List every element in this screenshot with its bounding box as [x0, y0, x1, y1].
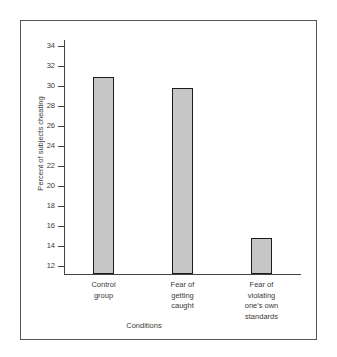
y-tick-label: 34: [33, 42, 55, 50]
y-tick-14: 14: [21, 242, 64, 250]
y-tick-label: 12: [33, 262, 55, 270]
figure-frame: 343230282624222018161412 Control groupFe…: [20, 20, 317, 340]
bar: [251, 238, 272, 274]
y-axis-title: Percent of subjects cheating: [36, 69, 45, 219]
plot-area: 343230282624222018161412 Control groupFe…: [21, 21, 316, 339]
x-axis-line: [64, 274, 301, 275]
y-tick-mark: [58, 166, 64, 167]
y-tick-mark: [58, 126, 64, 127]
y-tick-mark: [58, 246, 64, 247]
y-tick-label: 16: [33, 222, 55, 230]
bar: [93, 77, 114, 274]
y-tick-12: 12: [21, 262, 64, 270]
y-axis-line: [64, 40, 65, 275]
y-tick-label: 14: [33, 242, 55, 250]
y-tick-mark: [58, 266, 64, 267]
y-tick-mark: [58, 46, 64, 47]
y-tick-mark: [58, 146, 64, 147]
y-tick-mark: [58, 206, 64, 207]
y-tick-mark: [58, 186, 64, 187]
y-tick-mark: [58, 86, 64, 87]
x-axis-title: Conditions: [64, 321, 224, 330]
category-label: Fear of getting caught: [149, 280, 217, 312]
category-label: Fear of violating one's own standards: [228, 280, 296, 322]
y-tick-mark: [58, 226, 64, 227]
category-label: Control group: [70, 280, 138, 301]
bar: [172, 88, 193, 274]
y-tick-mark: [58, 106, 64, 107]
y-tick-mark: [58, 66, 64, 67]
y-tick-16: 16: [21, 222, 64, 230]
y-tick-34: 34: [21, 42, 64, 50]
